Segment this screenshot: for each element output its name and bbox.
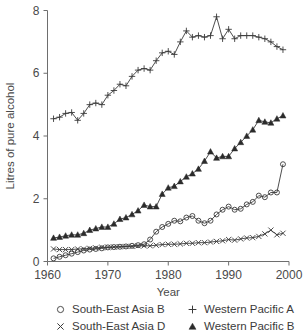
data-point-marker: [262, 36, 268, 42]
y-tick-label: 2: [33, 192, 40, 206]
data-point-marker: [177, 39, 183, 45]
data-point-marker: [256, 34, 262, 40]
x-tick-label: 1960: [34, 268, 61, 282]
data-point-marker: [213, 14, 219, 20]
series-south-east-asia-d: [51, 228, 286, 253]
data-point-marker: [123, 83, 129, 89]
data-point-marker: [201, 34, 207, 40]
data-point-marker: [219, 36, 225, 42]
data-point-marker: [207, 32, 213, 38]
data-point-marker: [99, 101, 105, 107]
data-point-marker: [225, 26, 231, 32]
data-point-marker: [201, 158, 207, 164]
data-point-marker: [256, 117, 262, 123]
alcohol-consumption-chart: 0246819601970198019902000YearLitres of p…: [0, 0, 307, 336]
x-tick-label: 1980: [155, 268, 182, 282]
data-point-marker: [280, 231, 285, 236]
data-point-marker: [171, 51, 177, 57]
data-point-marker: [195, 32, 201, 38]
legend-item-label: South-East Asia B: [72, 304, 165, 316]
legend-item-south-east-asia-b: South-East Asia B: [55, 301, 183, 318]
data-point-marker: [93, 100, 99, 106]
chart-legend: South-East Asia B Western Pacific A Sout…: [0, 301, 307, 335]
data-point-marker: [280, 113, 286, 119]
data-point-marker: [62, 110, 68, 116]
y-tick-label: 6: [33, 66, 40, 80]
data-point-marker: [274, 116, 280, 122]
series-line: [54, 116, 283, 238]
data-point-marker: [280, 47, 286, 53]
x-tick-label: 2000: [276, 268, 303, 282]
legend-item-western-pacific-a: Western Pacific A: [187, 301, 307, 318]
data-point-marker: [141, 202, 147, 208]
data-point-marker: [274, 232, 279, 237]
data-point-marker: [50, 116, 56, 122]
y-tick-label: 8: [33, 4, 40, 18]
data-point-marker: [177, 178, 183, 184]
data-point-marker: [244, 32, 250, 38]
legend-item-label: Western Pacific B: [204, 321, 295, 333]
data-point-marker: [250, 32, 256, 38]
data-point-marker: [183, 174, 189, 180]
series-western-pacific-a: [50, 14, 286, 124]
data-point-marker: [165, 48, 171, 54]
data-point-marker: [129, 211, 135, 217]
triangle-marker-icon: [187, 321, 198, 332]
legend-item-label: South-East Asia D: [72, 321, 165, 333]
data-point-marker: [231, 36, 237, 42]
data-point-marker: [87, 101, 93, 107]
circle-marker-icon: [55, 304, 66, 315]
data-point-marker: [250, 127, 256, 133]
plus-marker-icon: [187, 304, 198, 315]
data-point-marker: [56, 114, 62, 120]
data-point-marker: [171, 183, 177, 189]
x-tick-label: 1970: [95, 268, 122, 282]
x-tick-label: 1990: [215, 268, 242, 282]
legend-item-western-pacific-b: Western Pacific B: [187, 318, 307, 335]
data-point-marker: [189, 171, 195, 177]
data-point-marker: [147, 67, 153, 73]
data-point-marker: [123, 214, 129, 220]
x-axis-title: Year: [157, 286, 180, 298]
cross-marker-icon: [55, 321, 66, 332]
data-point-marker: [208, 149, 214, 155]
data-point-marker: [268, 228, 273, 233]
chart-plot-area: 0246819601970198019902000YearLitres of p…: [0, 0, 307, 336]
series-south-east-asia-b: [51, 162, 285, 261]
legend-item-label: Western Pacific A: [204, 304, 294, 316]
data-point-marker: [111, 221, 117, 227]
data-point-marker: [141, 65, 147, 71]
y-tick-label: 4: [33, 129, 40, 143]
data-point-marker: [238, 32, 244, 38]
data-point-marker: [262, 231, 267, 236]
y-axis-title: Litres of pure alcohol: [4, 83, 16, 190]
data-point-marker: [81, 230, 87, 236]
legend-item-south-east-asia-d: South-East Asia D: [55, 318, 183, 335]
